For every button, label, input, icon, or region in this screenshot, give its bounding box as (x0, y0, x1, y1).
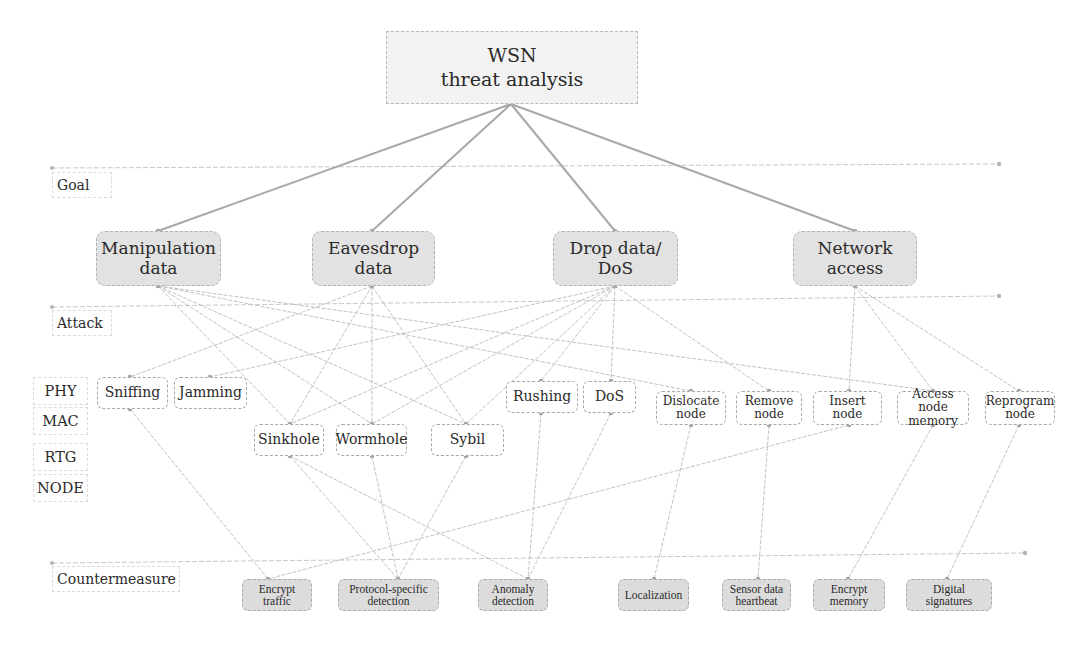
layer-label-phy: PHY (33, 377, 88, 405)
goal-network-access: Network access (793, 231, 917, 286)
attack-remove-node: Remove node (736, 391, 802, 425)
attack-jamming: Jamming (174, 377, 247, 409)
attack-sinkhole: Sinkhole (254, 424, 324, 456)
countermeasure-encrypt-traffic: Encrypt traffic (242, 579, 312, 611)
countermeasure-sensor-data-heartbeat: Sensor data heartbeat (722, 579, 791, 611)
layer-label-node: NODE (33, 474, 88, 502)
goal-drop-data-dos: Drop data/ DoS (553, 231, 678, 286)
root-node-wsn-threat-analysis: WSN threat analysis (386, 31, 638, 104)
attack-wormhole: Wormhole (336, 424, 407, 456)
attack-rushing: Rushing (506, 381, 578, 413)
countermeasure-digital-signatures: Digital signatures (906, 579, 992, 611)
attack-sybil: Sybil (431, 424, 504, 456)
countermeasure-anomaly-detection: Anomaly detection (478, 579, 548, 611)
layer-label-mac: MAC (33, 407, 88, 435)
attack-dislocate-node: Dislocate node (656, 391, 726, 425)
level-label-attack: Attack (52, 310, 112, 336)
attack-sniffing: Sniffing (97, 377, 168, 409)
attack-reprogram-node: Reprogram node (985, 391, 1055, 425)
attack-access-node-memory: Access node memory (897, 391, 969, 425)
goal-eavesdrop-data: Eavesdrop data (312, 231, 435, 286)
goal-manipulation-data: Manipulation data (96, 231, 221, 286)
level-label-countermeasure: Countermeasure (52, 566, 180, 592)
level-separators (52, 164, 1025, 563)
countermeasure-localization: Localization (618, 579, 689, 611)
attack-dos: DoS (583, 381, 636, 413)
attack-insert-node: Insert node (813, 391, 882, 425)
root-title: WSN threat analysis (441, 44, 583, 92)
layer-label-rtg: RTG (33, 443, 88, 471)
level-label-goal: Goal (52, 172, 112, 198)
countermeasure-encrypt-memory: Encrypt memory (813, 579, 885, 611)
countermeasure-protocol-specific-detection: Protocol-specific detection (338, 579, 439, 611)
